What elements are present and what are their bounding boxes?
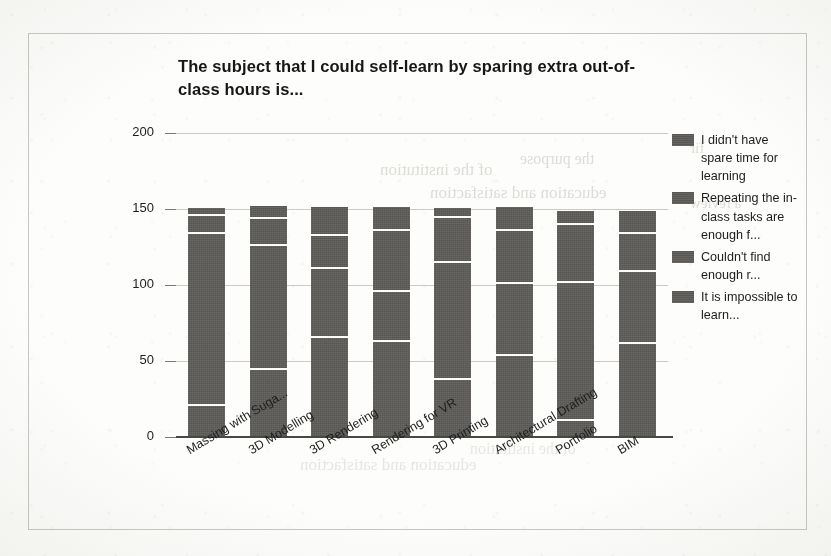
segment-divider bbox=[619, 342, 656, 344]
segment-divider bbox=[434, 378, 471, 380]
bar-stack[interactable] bbox=[619, 133, 656, 437]
segment-divider bbox=[311, 267, 348, 269]
y-tick-mark bbox=[165, 361, 176, 362]
legend-swatch-icon bbox=[672, 251, 694, 263]
bar-segment[interactable] bbox=[619, 271, 656, 342]
bar-segment[interactable] bbox=[311, 268, 348, 336]
y-axis-tick-label: 100 bbox=[108, 276, 154, 291]
legend-swatch-icon bbox=[672, 134, 694, 146]
segment-divider bbox=[188, 214, 225, 216]
segment-divider bbox=[434, 216, 471, 218]
y-tick-mark bbox=[165, 209, 176, 210]
legend-swatch-icon bbox=[672, 192, 694, 204]
legend-label: I didn't have spare time for learning bbox=[701, 133, 778, 183]
segment-divider bbox=[496, 229, 533, 231]
bar-segment[interactable] bbox=[434, 262, 471, 379]
bar-segment[interactable] bbox=[557, 211, 594, 225]
segment-divider bbox=[373, 340, 410, 342]
segment-divider bbox=[434, 261, 471, 263]
bar-segment[interactable] bbox=[373, 230, 410, 291]
segment-divider bbox=[496, 354, 533, 356]
bar-stack[interactable] bbox=[373, 133, 410, 437]
bar-segment[interactable] bbox=[496, 283, 533, 354]
y-tick-mark bbox=[165, 437, 176, 438]
bar-segment[interactable] bbox=[434, 217, 471, 263]
chart-legend: I didn't have spare time for learning Re… bbox=[670, 131, 802, 328]
y-axis-tick-label: 0 bbox=[108, 428, 154, 443]
bar-stack[interactable] bbox=[434, 133, 471, 437]
bar-segment[interactable] bbox=[619, 211, 656, 234]
legend-item[interactable]: It is impossible to learn... bbox=[670, 288, 802, 324]
y-tick-mark bbox=[165, 133, 176, 134]
segment-divider bbox=[311, 336, 348, 338]
segment-divider bbox=[250, 217, 287, 219]
y-tick-mark bbox=[165, 285, 176, 286]
bar-stack[interactable] bbox=[311, 133, 348, 437]
bar-segment[interactable] bbox=[373, 207, 410, 230]
segment-divider bbox=[557, 223, 594, 225]
y-axis-tick-label: 150 bbox=[108, 200, 154, 215]
chart-title: The subject that I could self-learn by s… bbox=[178, 55, 648, 102]
y-axis-tick-label: 200 bbox=[108, 124, 154, 139]
bar-segment[interactable] bbox=[496, 207, 533, 230]
segment-divider bbox=[557, 419, 594, 421]
bar-stack[interactable] bbox=[496, 133, 533, 437]
segment-divider bbox=[496, 282, 533, 284]
bar-segment[interactable] bbox=[250, 246, 287, 369]
legend-label: Couldn't find enough r... bbox=[701, 250, 771, 282]
segment-divider bbox=[188, 232, 225, 234]
legend-label: It is impossible to learn... bbox=[701, 290, 798, 322]
bar-segment[interactable] bbox=[250, 218, 287, 245]
legend-item[interactable]: I didn't have spare time for learning bbox=[670, 131, 802, 185]
x-axis-line bbox=[176, 436, 673, 438]
legend-label: Repeating the in-class tasks are enough … bbox=[701, 191, 797, 241]
segment-divider bbox=[311, 234, 348, 236]
bar-stack[interactable] bbox=[188, 133, 225, 437]
bar-segment[interactable] bbox=[557, 224, 594, 282]
bar-segment[interactable] bbox=[311, 235, 348, 268]
segment-divider bbox=[373, 290, 410, 292]
bar-segment[interactable] bbox=[188, 215, 225, 233]
legend-swatch-icon bbox=[672, 291, 694, 303]
segment-divider bbox=[250, 368, 287, 370]
bar-segment[interactable] bbox=[619, 343, 656, 437]
bar-segment[interactable] bbox=[311, 207, 348, 234]
bar-segment[interactable] bbox=[188, 233, 225, 405]
bar-segment[interactable] bbox=[619, 233, 656, 271]
segment-divider bbox=[619, 270, 656, 272]
bar-segment[interactable] bbox=[373, 291, 410, 341]
bar-segment[interactable] bbox=[311, 337, 348, 437]
segment-divider bbox=[250, 244, 287, 246]
segment-divider bbox=[188, 404, 225, 406]
segment-divider bbox=[557, 281, 594, 283]
legend-item[interactable]: Repeating the in-class tasks are enough … bbox=[670, 189, 802, 243]
segment-divider bbox=[619, 232, 656, 234]
legend-item[interactable]: Couldn't find enough r... bbox=[670, 248, 802, 284]
y-axis-tick-label: 50 bbox=[108, 352, 154, 367]
bar-segment[interactable] bbox=[496, 230, 533, 283]
segment-divider bbox=[373, 229, 410, 231]
